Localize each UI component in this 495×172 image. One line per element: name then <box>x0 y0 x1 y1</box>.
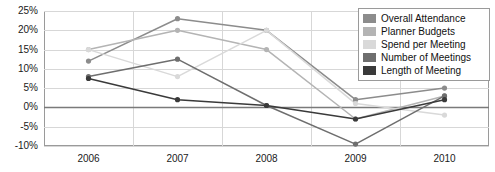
legend-swatch-icon <box>363 53 376 62</box>
y-axis-tick-label: -10% <box>0 141 38 151</box>
y-axis-tick-label: 25% <box>0 6 38 16</box>
legend-item-spend-per-meeting: Spend per Meeting <box>363 38 485 51</box>
legend-item-label: Spend per Meeting <box>381 40 466 50</box>
x-axis-tick-label: 2009 <box>311 154 400 164</box>
chart-container: Overall Attendance Planner Budgets Spend… <box>0 0 495 172</box>
legend-swatch-icon <box>363 40 376 49</box>
legend-item-length-of-meeting: Length of Meeting <box>363 64 485 77</box>
legend-item-label: Overall Attendance <box>381 14 466 24</box>
legend-swatch-icon <box>363 27 376 36</box>
y-axis-tick-label: 5% <box>0 83 38 93</box>
legend-swatch-icon <box>363 14 376 23</box>
x-axis-tick-label: 2010 <box>400 154 489 164</box>
chart-legend: Overall Attendance Planner Budgets Spend… <box>358 8 490 81</box>
y-axis-tick-label: 10% <box>0 64 38 74</box>
y-axis-tick-label: 20% <box>0 25 38 35</box>
x-axis-tick-label: 2006 <box>44 154 133 164</box>
y-axis-tick-label: -5% <box>0 122 38 132</box>
x-axis-tick-label: 2007 <box>133 154 222 164</box>
legend-swatch-icon <box>363 66 376 75</box>
legend-item-label: Number of Meetings <box>381 53 471 63</box>
legend-item-number-of-meetings: Number of Meetings <box>363 51 485 64</box>
y-axis-tick-label: 0% <box>0 102 38 112</box>
legend-item-label: Length of Meeting <box>381 66 461 76</box>
x-axis-tick-label: 2008 <box>222 154 311 164</box>
y-axis-tick-label: 15% <box>0 45 38 55</box>
legend-item-label: Planner Budgets <box>381 27 455 37</box>
legend-item-overall-attendance: Overall Attendance <box>363 12 485 25</box>
legend-item-planner-budgets: Planner Budgets <box>363 25 485 38</box>
